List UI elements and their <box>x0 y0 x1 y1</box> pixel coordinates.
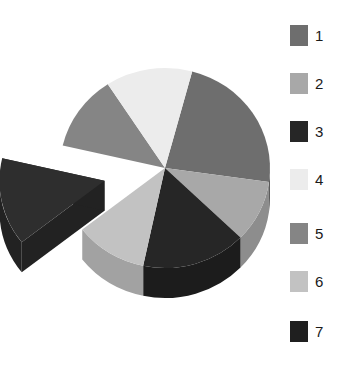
legend-label-2: 2 <box>315 76 323 91</box>
legend-label-3: 3 <box>315 124 323 139</box>
legend-swatch-icon-2 <box>290 73 308 94</box>
legend-item-3[interactable]: 3 <box>290 120 323 142</box>
legend-swatch-icon-4 <box>290 169 308 190</box>
legend-swatch-icon-7 <box>290 321 308 342</box>
legend-swatch-icon-1 <box>290 25 308 46</box>
legend-item-2[interactable]: 2 <box>290 72 323 94</box>
legend-item-4[interactable]: 4 <box>290 168 323 190</box>
legend-item-5[interactable]: 5 <box>290 222 323 244</box>
legend-label-4: 4 <box>315 172 323 187</box>
chart-legend: 1234567 <box>290 0 346 376</box>
pie-chart-figure: 1234567 <box>0 0 346 376</box>
legend-label-6: 6 <box>315 274 323 289</box>
legend-label-7: 7 <box>315 324 323 339</box>
legend-swatch-icon-3 <box>290 121 308 142</box>
legend-swatch-icon-5 <box>290 223 308 244</box>
legend-swatch-icon-6 <box>290 271 308 292</box>
legend-label-5: 5 <box>315 226 323 241</box>
legend-item-6[interactable]: 6 <box>290 270 323 292</box>
legend-item-1[interactable]: 1 <box>290 24 323 46</box>
legend-item-7[interactable]: 7 <box>290 320 323 342</box>
legend-label-1: 1 <box>315 28 323 43</box>
